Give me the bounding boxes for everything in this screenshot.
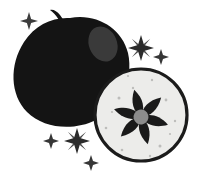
flesh-speckle [169,133,171,135]
flesh-speckle [151,79,153,81]
flesh-speckle [127,75,129,77]
flesh-speckle [105,127,108,130]
apple-illustration-svg [0,0,200,180]
flesh-speckle [149,155,151,157]
flesh-speckle [118,97,121,100]
flesh-speckle [159,145,162,148]
flesh-speckle [165,99,168,102]
flesh-speckle [111,111,113,113]
flesh-speckle [132,87,134,89]
flesh-speckle [174,120,176,122]
flesh-speckle [121,149,124,152]
apple-illustration-canvas: Apple with cut half [0,0,200,180]
